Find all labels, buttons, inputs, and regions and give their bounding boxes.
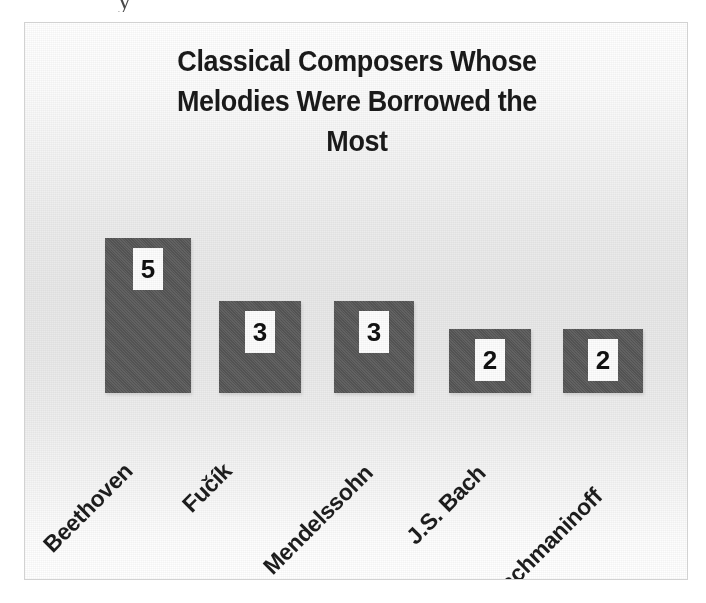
scan-artifact-text: y: [118, 0, 178, 12]
category-label: J.S. Bach: [401, 460, 491, 550]
category-labels-layer: BeethovenFučíkMendelssohnJ.S. BachRachma…: [25, 23, 688, 580]
plot-area: 53322 BeethovenFučíkMendelssohnJ.S. Bach…: [25, 23, 688, 580]
category-label: Beethoven: [38, 458, 138, 558]
chart-frame: Classical Composers Whose Melodies Were …: [24, 22, 688, 580]
category-label: Rachmaninoff: [483, 483, 608, 580]
chart-page: y Classical Composers Whose Melodies Wer…: [0, 0, 706, 603]
category-label: Mendelssohn: [258, 459, 379, 580]
category-label: Fučík: [177, 457, 238, 518]
